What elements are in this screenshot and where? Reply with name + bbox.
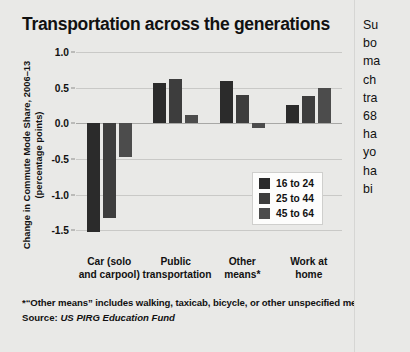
x-axis-category-line: Car (solo — [76, 256, 143, 269]
legend-item: 25 to 44 — [259, 193, 314, 204]
adjacent-text-line: tra — [363, 89, 410, 107]
chart-notes: *“Other means” includes walking, taxicab… — [22, 297, 352, 323]
y-axis-tick-mark — [71, 158, 75, 159]
adjacent-text-line: bi — [363, 180, 410, 198]
legend-item-label: 16 to 24 — [276, 178, 314, 189]
x-axis-category-label: Publictransportation — [143, 256, 210, 281]
x-axis-category-line: means* — [209, 269, 276, 282]
source-line: Source: US PIRG Education Fund — [22, 312, 352, 323]
x-axis-category-line: and carpool) — [76, 269, 143, 282]
legend-swatch-icon — [259, 178, 270, 189]
x-axis-category-line: Public — [143, 256, 210, 269]
x-axis-category-line: Work at — [276, 256, 343, 269]
page-title: Transportation across the generations — [22, 14, 330, 35]
legend-item: 16 to 24 — [259, 178, 314, 189]
bar — [286, 105, 299, 124]
bar — [220, 81, 233, 123]
bar — [153, 83, 166, 124]
legend-item: 45 to 64 — [259, 208, 314, 219]
x-axis-category-line: home — [276, 269, 343, 282]
adjacent-text-line: ha — [363, 125, 410, 143]
y-axis-tick-mark — [71, 87, 75, 88]
adjacent-text-line: ma — [363, 52, 410, 70]
bar — [236, 95, 249, 124]
y-axis-title-line1: Change in Commute Mode Share, 2006–13 — [21, 50, 33, 260]
legend-item-label: 45 to 64 — [276, 208, 314, 219]
legend-swatch-icon — [259, 193, 270, 204]
bar — [103, 123, 116, 218]
bar — [87, 123, 100, 231]
y-axis-tick-label: -1.5 — [51, 225, 69, 236]
adjacent-text-line: yo — [363, 143, 410, 161]
adjacent-article-column: Subomachtra68hayohabi — [354, 0, 410, 352]
y-axis-tick-mark — [71, 52, 75, 53]
y-axis-tick-label: 0.5 — [55, 82, 69, 93]
footnote-text: *“Other means” includes walking, taxicab… — [22, 297, 352, 308]
source-value: US PIRG Education Fund — [60, 312, 175, 323]
y-axis-title-line2: (percentage points) — [33, 50, 45, 260]
adjacent-text-line: Su — [363, 16, 410, 34]
chart-legend: 16 to 2425 to 4445 to 64 — [252, 172, 323, 225]
bar — [252, 123, 265, 128]
bar-group — [143, 52, 210, 248]
adjacent-text-line: ch — [363, 71, 410, 89]
x-axis-category-label: Work athome — [276, 256, 343, 281]
adjacent-text-line: ha — [363, 162, 410, 180]
y-axis-tick-label: -1.0 — [51, 189, 69, 200]
bar — [119, 123, 132, 157]
bar-group — [76, 52, 143, 248]
adjacent-text-line: bo — [363, 34, 410, 52]
source-prefix: Source: — [22, 312, 60, 323]
bar — [185, 115, 198, 123]
y-axis-tick-label: -0.5 — [51, 153, 69, 164]
y-axis-tick-mark — [71, 123, 75, 124]
bar — [302, 96, 315, 123]
y-axis-tick-mark — [71, 194, 75, 195]
y-axis-title: Change in Commute Mode Share, 2006–13 (p… — [21, 50, 45, 260]
legend-swatch-icon — [259, 208, 270, 219]
x-axis-category-label: Car (soloand carpool) — [76, 256, 143, 281]
y-axis-tick-label: 0.0 — [55, 118, 69, 129]
legend-item-label: 25 to 44 — [276, 193, 314, 204]
bar — [318, 88, 331, 124]
y-axis-tick-mark — [71, 230, 75, 231]
y-axis-tick-label: 1.0 — [55, 47, 69, 58]
bar — [169, 79, 182, 123]
adjacent-text-line: 68 — [363, 107, 410, 125]
x-axis-category-line: transportation — [143, 269, 210, 282]
chart-figure: Transportation across the generations Ch… — [0, 0, 354, 352]
x-axis-category-label: Othermeans* — [209, 256, 276, 281]
x-axis-category-line: Other — [209, 256, 276, 269]
